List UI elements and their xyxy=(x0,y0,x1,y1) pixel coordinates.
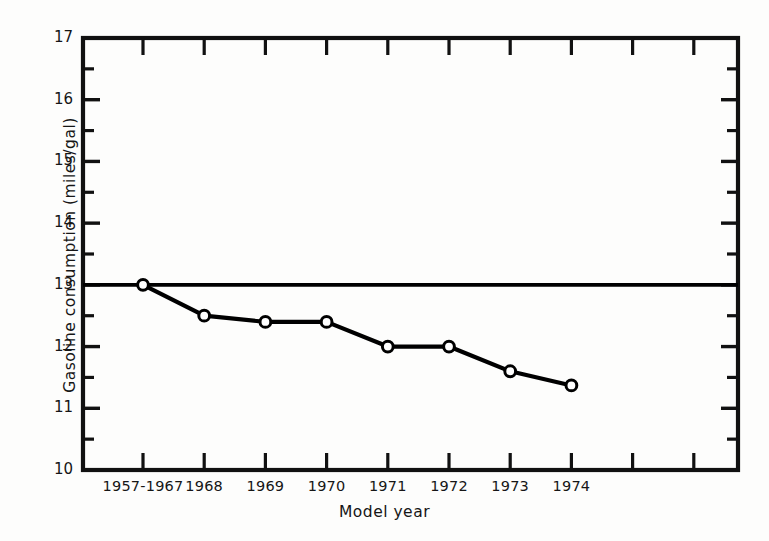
x-axis-ticks xyxy=(143,38,694,470)
y-tick-label: 15 xyxy=(39,151,73,169)
y-tick-label: 13 xyxy=(39,275,73,293)
y-tick-label: 16 xyxy=(39,90,73,108)
data-point-marker xyxy=(382,341,393,352)
gasoline-consumption-line-chart xyxy=(0,0,769,541)
y-tick-label: 12 xyxy=(39,337,73,355)
data-point-marker xyxy=(321,316,332,327)
x-axis-title: Model year xyxy=(0,503,769,521)
y-tick-label: 14 xyxy=(39,213,73,231)
y-axis-title: Gasoline consumption (miles/gal) xyxy=(61,95,79,415)
plot-frame xyxy=(83,38,738,470)
y-tick-label: 11 xyxy=(39,398,73,416)
data-point-marker xyxy=(199,310,210,321)
y-tick-label: 10 xyxy=(39,460,73,478)
x-tick-label: 1974 xyxy=(511,478,631,494)
data-point-marker xyxy=(260,316,271,327)
y-tick-label: 17 xyxy=(39,28,73,46)
data-point-marker xyxy=(505,366,516,377)
data-point-marker xyxy=(566,380,577,391)
y-axis-ticks xyxy=(83,69,738,439)
data-point-marker xyxy=(138,279,149,290)
data-point-marker xyxy=(444,341,455,352)
chart-figure: Gasoline consumption (miles/gal) Model y… xyxy=(0,0,769,541)
